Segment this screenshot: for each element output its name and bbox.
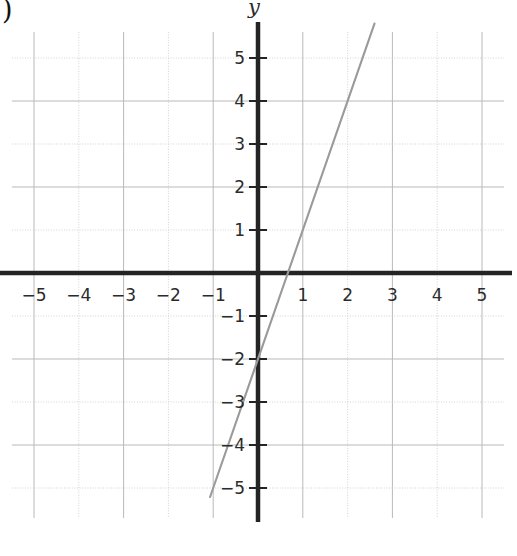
y-tick-label: 1 xyxy=(234,222,245,239)
y-tick-label: −4 xyxy=(220,437,245,454)
axes xyxy=(0,22,512,522)
x-tick-label: −5 xyxy=(21,287,46,304)
y-tick-label: 2 xyxy=(234,179,245,196)
x-tick-label: 4 xyxy=(432,287,443,304)
x-tick-label: 3 xyxy=(387,287,398,304)
x-tick-label: −3 xyxy=(111,287,136,304)
x-tick-label: −2 xyxy=(156,287,181,304)
y-tick-label: −2 xyxy=(220,351,245,368)
graph-figure: ) y −5−4−3−2−112345 54321−1−2−3−4−5 xyxy=(0,0,517,556)
y-tick-label: −3 xyxy=(220,394,245,411)
y-tick-label: 4 xyxy=(234,93,245,110)
y-tick-label: −5 xyxy=(220,480,245,497)
x-tick-label: 2 xyxy=(342,287,353,304)
y-tick-label: 5 xyxy=(234,50,245,67)
x-tick-label: 5 xyxy=(477,287,488,304)
x-tick-label: −4 xyxy=(66,287,91,304)
coordinate-plane xyxy=(0,0,517,556)
y-tick-label: 3 xyxy=(234,136,245,153)
y-tick-label: −1 xyxy=(220,308,245,325)
x-tick-label: −1 xyxy=(201,287,226,304)
x-tick-label: 1 xyxy=(297,287,308,304)
